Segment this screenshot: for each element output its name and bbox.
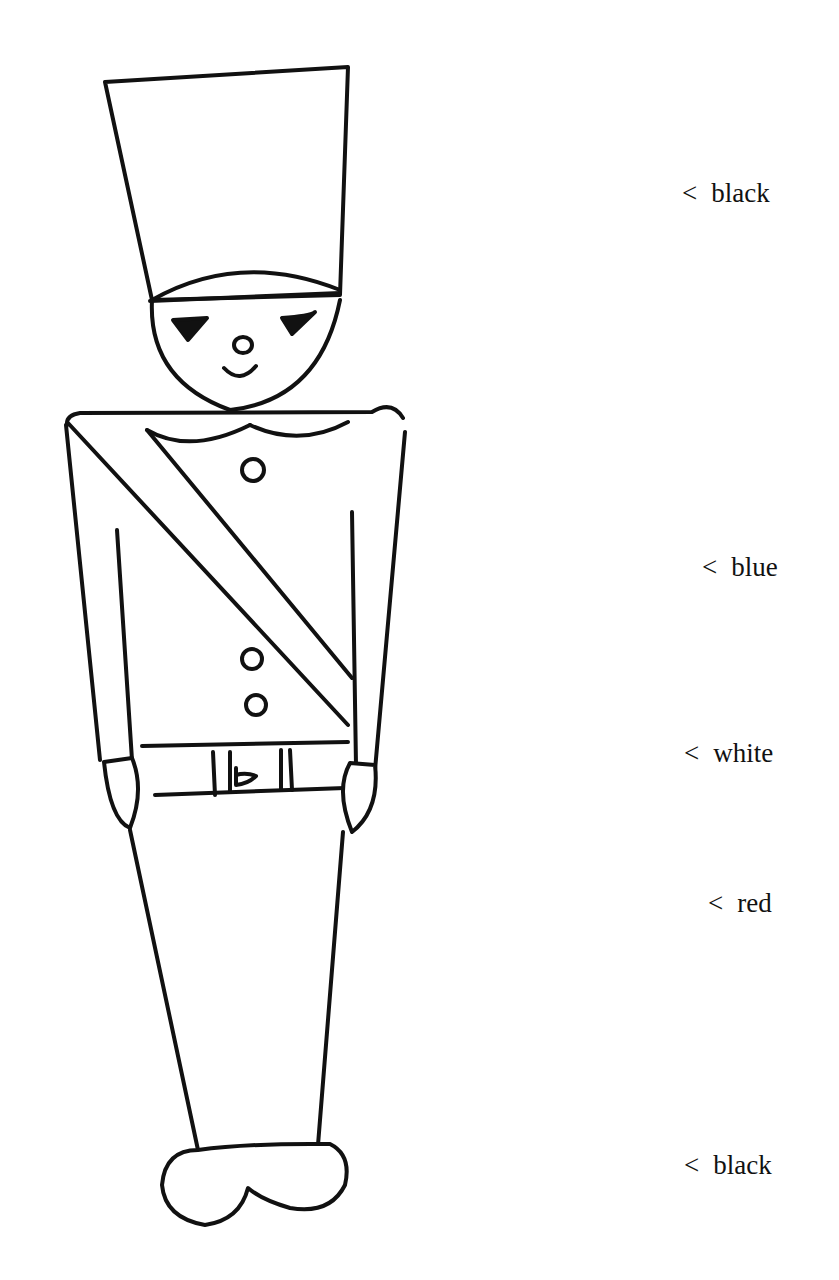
label-belt-color: <white xyxy=(684,740,773,767)
trousers xyxy=(130,830,343,1150)
label-shoes-color: <black xyxy=(684,1152,772,1179)
label-trousers-color: <red xyxy=(708,890,772,917)
hands xyxy=(104,758,376,832)
pointer-arrow-icon: < xyxy=(684,1150,699,1180)
label-hat-color: <black xyxy=(682,180,770,207)
pointer-arrow-icon: < xyxy=(682,178,697,208)
hat xyxy=(105,67,348,301)
pointer-arrow-icon: < xyxy=(684,738,699,768)
shoes xyxy=(162,1144,347,1225)
head xyxy=(152,300,340,410)
label-jacket-color: <blue xyxy=(702,554,778,581)
pointer-arrow-icon: < xyxy=(702,552,717,582)
jacket xyxy=(66,407,405,770)
belt xyxy=(142,742,348,795)
pointer-arrow-icon: < xyxy=(708,888,723,918)
